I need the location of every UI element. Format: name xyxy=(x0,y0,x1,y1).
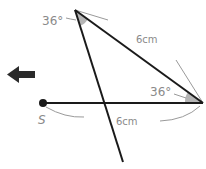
base-side-label: 6cm xyxy=(116,116,138,127)
right-angle-pointer xyxy=(174,94,186,98)
point-s-label: S xyxy=(38,113,46,127)
top-angle-label: 36° xyxy=(42,14,63,28)
construction-arc-s xyxy=(46,107,84,117)
side-top-to-bottom xyxy=(75,10,123,162)
triangle-diagram: 36° 6cm 36° S 6cm xyxy=(0,0,206,169)
side-top-to-right xyxy=(75,10,203,103)
slanted-side-label: 6cm xyxy=(136,34,158,45)
construction-arc-base xyxy=(160,106,200,121)
right-angle-label: 36° xyxy=(150,85,171,99)
point-s-dot xyxy=(39,99,47,107)
top-angle-pointer xyxy=(66,18,76,20)
arrow-left-icon xyxy=(7,66,35,83)
